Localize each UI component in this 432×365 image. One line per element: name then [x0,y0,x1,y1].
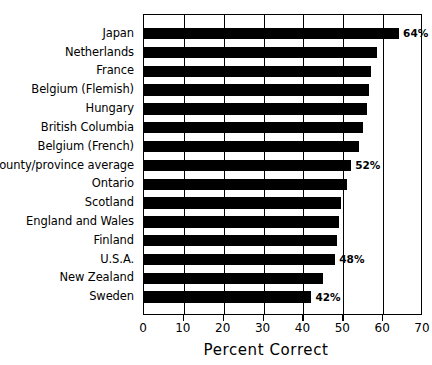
x-tick-label: 0 [139,321,147,335]
bar [144,103,367,114]
bar-chart: JapanNetherlandsFranceBelgium (Flemish)H… [0,0,432,365]
bar-row [144,62,423,81]
category-label: British Columbia [41,118,134,136]
category-label: Netherlands [65,43,134,61]
bar-row [144,118,423,137]
bar-row [144,175,423,194]
bar-row [144,81,423,100]
plot-area: 64%52%48%42% [143,14,422,315]
bar [144,235,337,246]
category-label: 14 county/province average [0,156,134,174]
category-label: England and Wales [26,212,134,230]
bar [144,179,347,190]
category-label: Belgium (Flemish) [31,80,134,98]
bar-row [144,100,423,119]
category-label: Scotland [85,193,134,211]
bar [144,47,377,58]
x-tick-label: 40 [295,321,310,335]
x-tick-label: 60 [375,321,390,335]
bar-row [144,231,423,250]
bar [144,254,335,265]
x-axis-title: Percent Correct [0,341,432,359]
x-tick-label: 70 [414,321,429,335]
category-label: Hungary [86,99,134,117]
x-tick-label: 30 [255,321,270,335]
category-label: Ontario [92,174,134,192]
bar-value-label: 64% [403,24,428,43]
bar-row [144,137,423,156]
x-axis-title-text: Percent Correct [104,341,329,359]
bar-row [144,194,423,213]
x-tick-label: 10 [175,321,190,335]
category-label: Belgium (French) [38,137,134,155]
category-axis-labels: JapanNetherlandsFranceBelgium (Flemish)H… [0,14,140,315]
category-label: Sweden [89,287,134,305]
x-tick-label: 50 [335,321,350,335]
x-axis-tick-labels: 010203040506070 [0,321,432,339]
bar [144,28,399,39]
category-label: Finland [94,231,134,249]
category-label: France [96,61,134,79]
bar [144,216,339,227]
bar-row [144,213,423,232]
bar [144,84,369,95]
bar-row [144,24,423,43]
bar [144,291,311,302]
bar [144,66,371,77]
bar [144,197,341,208]
bar-row [144,156,423,175]
bar-row [144,288,423,307]
category-label: U.S.A. [100,250,134,268]
category-label: Japan [102,24,134,42]
bar-row [144,43,423,62]
bar [144,160,351,171]
category-label: New Zealand [60,268,134,286]
bar [144,122,363,133]
bar-value-label: 48% [339,250,364,269]
bar-row [144,269,423,288]
x-tick-label: 20 [215,321,230,335]
bar [144,273,323,284]
bar-row [144,250,423,269]
bar-value-label: 42% [315,288,340,307]
bar-value-label: 52% [355,156,380,175]
bar [144,141,359,152]
